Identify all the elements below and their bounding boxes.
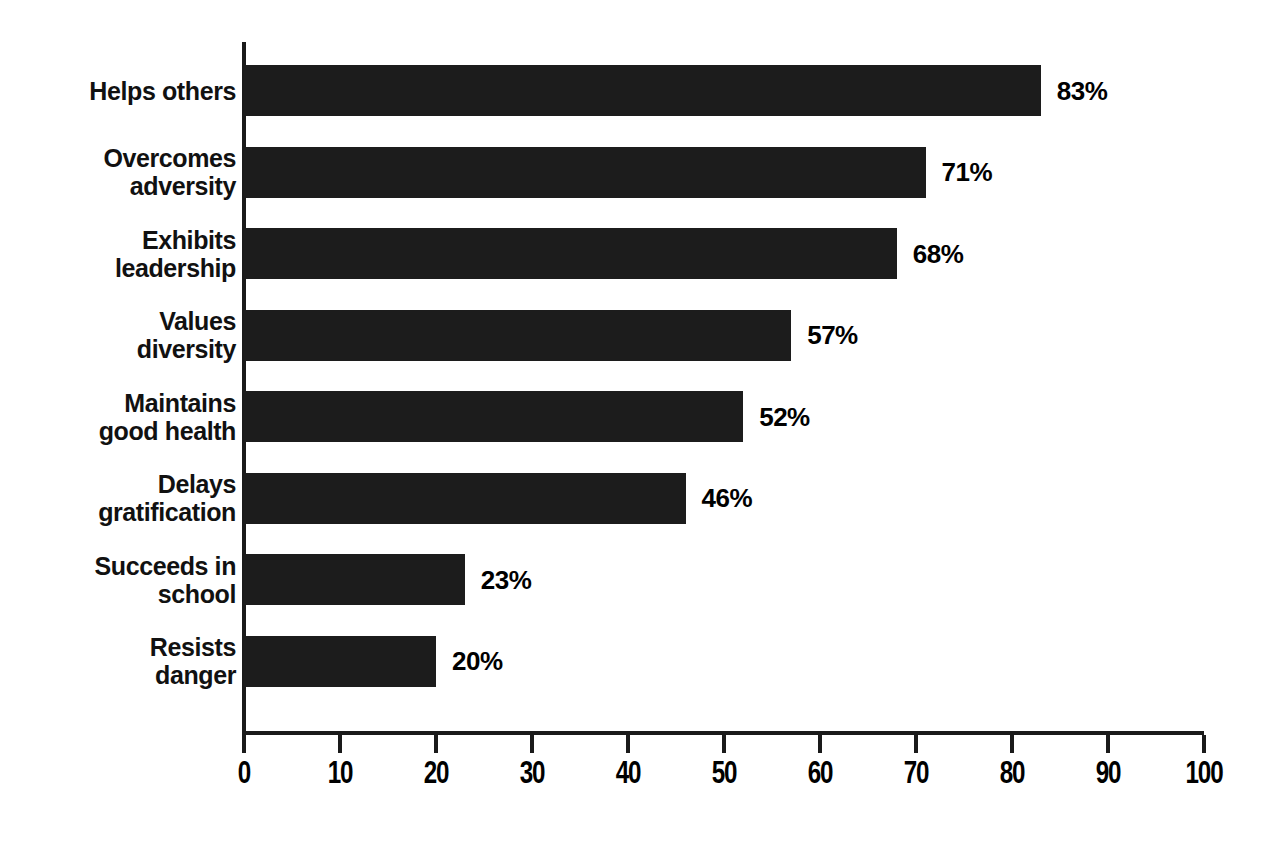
x-axis-tick: [242, 735, 246, 753]
category-label: Delays gratification: [0, 470, 236, 526]
category-label: Exhibits leadership: [0, 226, 236, 282]
category-label: Resists danger: [0, 633, 236, 689]
bar-chart: 0102030405060708090100 Helps others83%Ov…: [0, 0, 1287, 842]
bar[interactable]: [244, 636, 436, 687]
x-axis-tick: [1010, 735, 1014, 753]
x-axis-tick: [530, 735, 534, 753]
bar-row: Maintains good health52%: [0, 391, 1287, 442]
bar-row: Succeeds in school23%: [0, 554, 1287, 605]
x-axis-tick-label: 70: [885, 757, 947, 788]
bar-row: Exhibits leadership68%: [0, 228, 1287, 279]
x-axis-tick: [722, 735, 726, 753]
bar-value-label: 68%: [913, 241, 964, 267]
x-axis-tick: [338, 735, 342, 753]
bar[interactable]: [244, 147, 926, 198]
bar-value-label: 57%: [807, 322, 858, 348]
x-axis-tick-label: 20: [405, 757, 467, 788]
x-axis-tick-label: 80: [981, 757, 1043, 788]
x-axis-tick: [818, 735, 822, 753]
x-axis-tick-label: 40: [597, 757, 659, 788]
bar-value-label: 46%: [702, 485, 753, 511]
x-axis-tick-label: 30: [501, 757, 563, 788]
bar-row: Helps others83%: [0, 65, 1287, 116]
bar[interactable]: [244, 65, 1041, 116]
bar-value-label: 23%: [481, 567, 532, 593]
bar[interactable]: [244, 310, 791, 361]
x-axis-tick-label: 50: [693, 757, 755, 788]
category-label: Overcomes adversity: [0, 144, 236, 200]
x-axis-tick-label: 10: [309, 757, 371, 788]
bar[interactable]: [244, 473, 686, 524]
bar-value-label: 52%: [759, 404, 810, 430]
bar-row: Values diversity57%: [0, 310, 1287, 361]
x-axis-tick: [434, 735, 438, 753]
category-label: Values diversity: [0, 307, 236, 363]
category-label: Succeeds in school: [0, 552, 236, 608]
bar-value-label: 20%: [452, 648, 503, 674]
x-axis-tick: [1106, 735, 1110, 753]
x-axis-tick-label: 90: [1077, 757, 1139, 788]
x-axis-tick-label: 100: [1173, 757, 1235, 788]
bar-value-label: 71%: [942, 159, 993, 185]
category-label: Maintains good health: [0, 389, 236, 445]
bar-row: Delays gratification46%: [0, 473, 1287, 524]
x-axis-tick-label: 60: [789, 757, 851, 788]
bar[interactable]: [244, 228, 897, 279]
x-axis-tick-label: 0: [213, 757, 275, 788]
x-axis-tick: [626, 735, 630, 753]
bar[interactable]: [244, 554, 465, 605]
bar-row: Resists danger20%: [0, 636, 1287, 687]
category-label: Helps others: [0, 77, 236, 105]
x-axis-tick: [914, 735, 918, 753]
bar-value-label: 83%: [1057, 78, 1108, 104]
bar[interactable]: [244, 391, 743, 442]
x-axis-tick: [1202, 735, 1206, 753]
bar-row: Overcomes adversity71%: [0, 147, 1287, 198]
